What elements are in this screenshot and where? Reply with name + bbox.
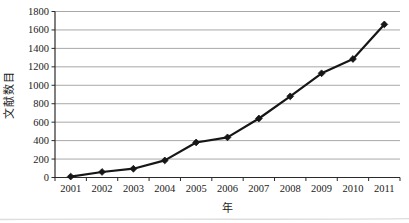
y-tick-label: 600 — [33, 117, 49, 128]
data-series-line — [71, 24, 385, 176]
literature-count-line-chart: 0200400600800100012001400160018002001200… — [0, 0, 409, 223]
y-tick-label: 200 — [33, 154, 49, 165]
y-tick-label: 1800 — [28, 6, 49, 17]
x-tick-label: 2010 — [342, 183, 363, 194]
y-tick-label: 0 — [44, 172, 49, 183]
data-point-marker — [67, 173, 74, 180]
x-tick-label: 2011 — [374, 183, 395, 194]
y-tick-label: 1000 — [28, 80, 49, 91]
y-tick-label: 400 — [33, 135, 49, 146]
y-tick-label: 1400 — [28, 43, 49, 54]
y-tick-label: 800 — [33, 98, 49, 109]
y-tick-label: 1200 — [28, 61, 49, 72]
x-tick-label: 2005 — [186, 183, 207, 194]
x-tick-label: 2009 — [311, 183, 332, 194]
x-tick-label: 2007 — [248, 183, 269, 194]
y-tick-label: 1600 — [28, 24, 49, 35]
x-tick-label: 2004 — [154, 183, 176, 194]
x-tick-label: 2006 — [217, 183, 238, 194]
x-tick-label: 2003 — [123, 183, 144, 194]
x-tick-label: 2002 — [92, 183, 113, 194]
scan-artifact-line — [0, 219, 409, 220]
y-axis-title: 文献数目 — [0, 55, 14, 135]
plot-area: 0200400600800100012001400160018002001200… — [0, 0, 409, 223]
x-axis-title: 年 — [55, 199, 400, 215]
data-point-marker — [99, 169, 106, 176]
data-point-marker — [130, 165, 137, 172]
x-tick-label: 2008 — [280, 183, 301, 194]
x-tick-label: 2001 — [60, 183, 81, 194]
